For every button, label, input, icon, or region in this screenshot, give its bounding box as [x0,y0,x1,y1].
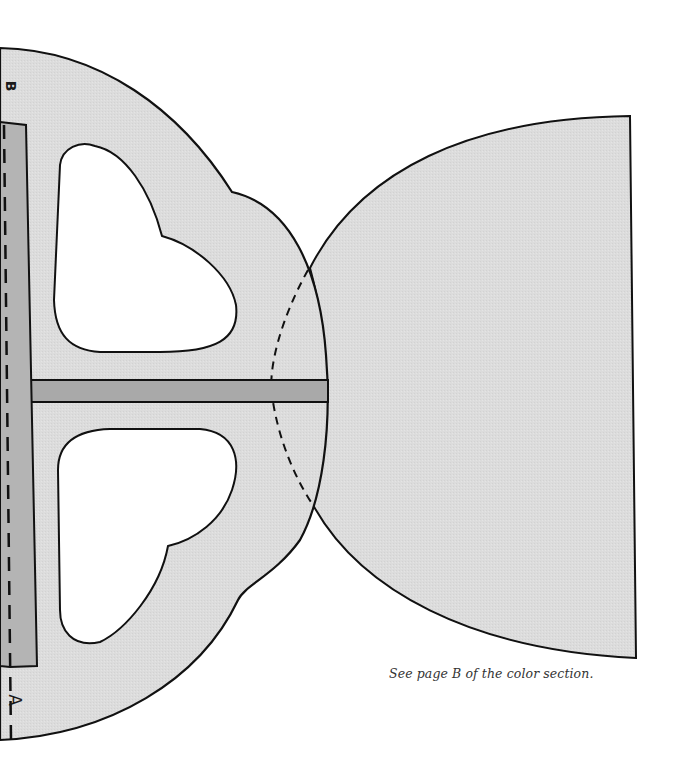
center-strip [30,380,328,402]
piece-label-a: A [5,694,25,706]
piece-label-b: B [3,81,19,92]
right-half-circle-piece [310,116,636,658]
pattern-drawing [0,0,676,772]
page-caption: See page B of the color section. [389,666,593,681]
